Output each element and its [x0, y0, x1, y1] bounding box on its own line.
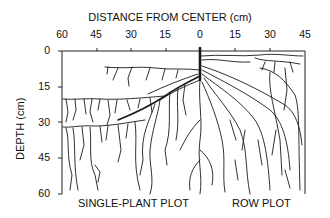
root-distribution-diagram [0, 0, 330, 218]
row-plot-roots [180, 54, 303, 194]
single-plant-roots [63, 67, 200, 194]
